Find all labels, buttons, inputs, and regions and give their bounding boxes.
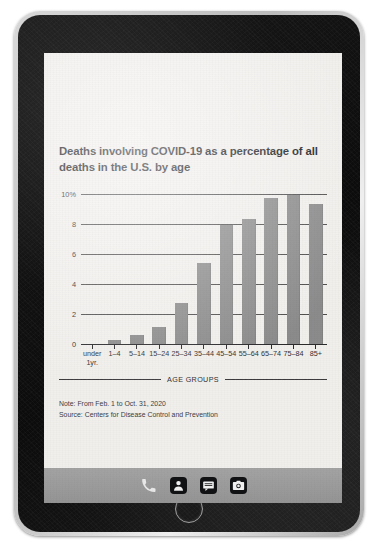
bar-chart: 0246810% <box>59 195 327 345</box>
chart-bar-slot <box>81 195 103 345</box>
chart-bar[interactable] <box>287 195 301 345</box>
chart-bar-slot <box>238 195 260 345</box>
chart-bar[interactable] <box>242 219 256 345</box>
chart-x-label: under 1yr. <box>81 349 103 367</box>
chart-x-label: 45–54 <box>215 349 237 367</box>
chart-x-label: 85+ <box>305 349 327 367</box>
chart-bar-slot <box>305 195 327 345</box>
chart-x-label: 65–74 <box>260 349 282 367</box>
axis-label-rule-right <box>225 379 327 380</box>
chart-x-tick <box>226 345 227 349</box>
chart-x-tick <box>114 345 115 349</box>
chart-x-label: 55–64 <box>238 349 260 367</box>
chart-x-tick-slot <box>103 345 125 349</box>
chart-bar[interactable] <box>220 225 234 345</box>
chart-y-tick-label: 4 <box>72 280 76 289</box>
axis-label-text: AGE GROUPS <box>167 375 219 384</box>
chart-y-tick-label: 2 <box>72 310 76 319</box>
tablet-screen[interactable]: Deaths involving COVID-19 as a percentag… <box>44 53 342 503</box>
chart-bar[interactable] <box>175 303 189 345</box>
device-bezel: Deaths involving COVID-19 as a percentag… <box>18 15 360 532</box>
chart-x-tick-slot <box>148 345 170 349</box>
chart-x-tick-slot <box>305 345 327 349</box>
axis-label-rule-left <box>59 379 161 380</box>
chart-bar[interactable] <box>197 263 211 346</box>
chart-plot-area: 0246810% <box>81 195 327 345</box>
chart-y-tick-label: 6 <box>72 250 76 259</box>
article-page: Deaths involving COVID-19 as a percentag… <box>44 53 342 468</box>
chart-x-tick <box>92 345 93 349</box>
chart-x-label: 1–4 <box>103 349 125 367</box>
chart-x-tick <box>136 345 137 349</box>
chart-x-label: 35–44 <box>193 349 215 367</box>
chart-x-tick <box>248 345 249 349</box>
chart-x-label: 5–14 <box>126 349 148 367</box>
chart-bar-slot <box>148 195 170 345</box>
chart-bar-slot <box>103 195 125 345</box>
tablet-device: Deaths involving COVID-19 as a percentag… <box>0 0 378 547</box>
chart-bars <box>81 195 327 345</box>
chart-x-tick <box>293 345 294 349</box>
chart-bar[interactable] <box>152 327 166 345</box>
device-outer-frame: Deaths involving COVID-19 as a percentag… <box>14 11 364 536</box>
chart-bar[interactable] <box>309 204 323 345</box>
chart-x-tick <box>159 345 160 349</box>
chart-x-tick-slot <box>126 345 148 349</box>
chart-x-tick-slot <box>238 345 260 349</box>
chart-x-tick-slot <box>215 345 237 349</box>
chart-x-label: 25–34 <box>170 349 192 367</box>
chart-y-tick-label: 8 <box>72 220 76 229</box>
phone-icon[interactable] <box>140 477 157 494</box>
chart-bar-slot <box>282 195 304 345</box>
messages-icon[interactable] <box>200 477 217 494</box>
chart-note: Note: From Feb. 1 to Oct. 31, 2020 <box>59 398 327 409</box>
contacts-icon[interactable] <box>170 477 187 494</box>
chart-x-label: 15–24 <box>148 349 170 367</box>
chart-bar-slot <box>126 195 148 345</box>
page-title: Deaths involving COVID-19 as a percentag… <box>59 143 321 175</box>
chart-x-tick <box>203 345 204 349</box>
chart-bar-slot <box>193 195 215 345</box>
chart-x-tick-slot <box>193 345 215 349</box>
chart-x-tick-slot <box>260 345 282 349</box>
chart-y-tick-label: 0 <box>72 340 76 349</box>
chart-x-tick-slot <box>170 345 192 349</box>
chart-bar-slot <box>215 195 237 345</box>
chart-bar[interactable] <box>264 198 278 345</box>
chart-x-tick <box>181 345 182 349</box>
camera-icon[interactable] <box>230 477 247 494</box>
chart-x-tick-slot <box>81 345 103 349</box>
chart-x-axis-label: AGE GROUPS <box>59 375 327 384</box>
chart-x-tick-slot <box>282 345 304 349</box>
chart-x-ticks <box>81 345 327 349</box>
chart-bar-slot <box>260 195 282 345</box>
app-dock <box>44 468 342 503</box>
chart-x-tick-labels: under 1yr.1–45–1415–2425–3435–4445–5455–… <box>81 349 327 367</box>
chart-footnotes: Note: From Feb. 1 to Oct. 31, 2020 Sourc… <box>59 398 327 420</box>
chart-x-tick <box>315 345 316 349</box>
chart-x-tick <box>271 345 272 349</box>
chart-source: Source: Centers for Disease Control and … <box>59 409 327 420</box>
chart-bar-slot <box>170 195 192 345</box>
chart-y-tick-label: 10% <box>61 190 76 199</box>
chart-x-label: 75–84 <box>282 349 304 367</box>
